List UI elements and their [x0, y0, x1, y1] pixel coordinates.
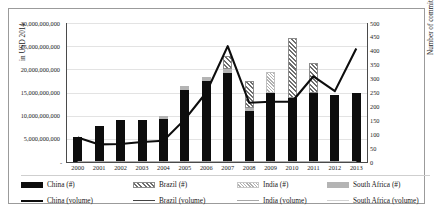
legend-line-icon [133, 200, 155, 201]
y-axis-left-ticks: 30,000,000,00025,000,000,00020,000,000,0… [9, 23, 64, 163]
chart-frame: in USD 2014 Number of commitments 30,000… [8, 8, 425, 204]
legend-line-icon [237, 200, 259, 201]
legend-label: South Africa (#) [353, 180, 400, 189]
y-axis-right-tick-label: 400 [370, 47, 379, 54]
legend-label: South Africa (volume) [353, 196, 419, 205]
y-axis-right-ticks: 500450400350300250200150100500 [370, 23, 396, 163]
line-china-volume [78, 46, 357, 144]
y-axis-left-tick-label: 15,000,000,000 [21, 89, 60, 96]
legend-item-india-hash[interactable]: India (#) [237, 177, 288, 192]
y-axis-right-tick-label: 350 [370, 61, 379, 68]
plot-right-axis-line [367, 23, 368, 163]
y-axis-right-tick-label: 300 [370, 75, 379, 82]
legend-item-south-africa-volume[interactable]: South Africa (volume) [327, 193, 419, 208]
y-axis-left-tick-label: 10,000,000,000 [21, 112, 60, 119]
legend-row-hash: China (#)Brazil (#)India (#)South Africa… [21, 177, 430, 192]
legend-swatch-icon [21, 182, 43, 188]
y-axis-right-tick-label: 50 [370, 145, 376, 152]
legend-item-china-volume[interactable]: China (volume) [21, 193, 93, 208]
y-axis-right-tick-label: 250 [370, 89, 379, 96]
y-axis-left-tick-label: 30,000,000,000 [21, 20, 60, 27]
y-axis-right-title: Number of commitments [427, 0, 434, 55]
legend-line-icon [21, 200, 43, 202]
chart-legend: China (#)Brazil (#)India (#)South Africa… [21, 177, 430, 210]
legend-row-volume: China (volume)Brazil (volume)India (volu… [21, 193, 430, 208]
y-axis-right-tick-label: 450 [370, 33, 379, 40]
legend-label: Brazil (#) [159, 180, 187, 189]
y-axis-left-tick-label: - [60, 159, 62, 166]
legend-label: Brazil (volume) [159, 196, 205, 205]
y-axis-left-tick-label: 25,000,000,000 [21, 43, 60, 50]
y-axis-right-tick-label: 500 [370, 20, 379, 27]
legend-swatch-icon [237, 182, 259, 188]
plot-baseline [66, 162, 368, 163]
x-axis-tick-label: 2013 [341, 164, 371, 171]
y-axis-right-tick-label: 150 [370, 117, 379, 124]
y-axis-left-tick-label: 20,000,000,000 [21, 66, 60, 73]
legend-item-south-africa-hash[interactable]: South Africa (#) [327, 177, 400, 192]
plot-area [67, 23, 367, 162]
legend-swatch-icon [327, 182, 349, 188]
legend-label: China (volume) [47, 196, 93, 205]
legend-label: India (volume) [263, 196, 307, 205]
legend-item-brazil-hash[interactable]: Brazil (#) [133, 177, 187, 192]
legend-divider [21, 175, 430, 176]
legend-line-icon [327, 200, 349, 201]
y-axis-left-tick-label: 5,000,000,000 [24, 135, 60, 142]
chart-screenshot: in USD 2014 Number of commitments 30,000… [0, 0, 434, 212]
legend-item-china-hash[interactable]: China (#) [21, 177, 75, 192]
legend-item-brazil-volume[interactable]: Brazil (volume) [133, 193, 205, 208]
legend-label: India (#) [263, 180, 288, 189]
line-series-group [67, 23, 367, 162]
y-axis-right-tick-label: 100 [370, 131, 379, 138]
legend-swatch-icon [133, 182, 155, 188]
legend-label: China (#) [47, 180, 75, 189]
legend-item-india-volume[interactable]: India (volume) [237, 193, 307, 208]
y-axis-right-tick-label: 200 [370, 103, 379, 110]
